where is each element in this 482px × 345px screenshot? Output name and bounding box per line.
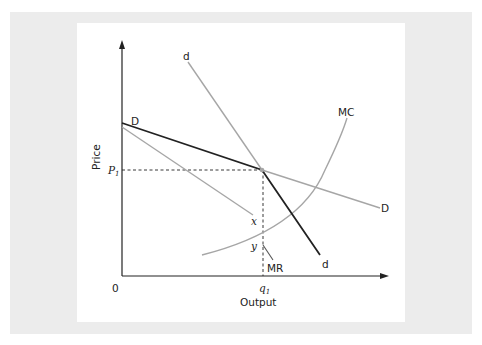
kink-point — [260, 168, 265, 173]
marginal-revenue-label: MR — [267, 262, 283, 274]
kinked-demand-curve — [122, 123, 320, 255]
price-level-label: P1 — [107, 164, 120, 178]
demand-label: D — [131, 115, 139, 127]
y-axis-arrow-icon — [119, 40, 125, 49]
kinked-demand-diagram: D D d d MC MR x y P1 q1 0 Output Price — [0, 0, 482, 345]
inelastic-demand-label: d — [183, 50, 190, 62]
x-axis-arrow-icon — [380, 273, 389, 279]
demand-inelastic-extension — [188, 62, 262, 170]
inelastic-demand-end-label: d — [322, 258, 329, 270]
gap-top-label: x — [251, 215, 257, 227]
marginal-cost-label: MC — [338, 106, 354, 118]
gap-bottom-label: y — [250, 240, 258, 252]
marginal-revenue-lower — [263, 245, 273, 260]
quantity-level-label: q1 — [259, 282, 270, 296]
marginal-cost-curve — [202, 118, 347, 255]
x-axis-label: Output — [240, 296, 276, 308]
marginal-revenue-upper — [122, 127, 253, 215]
origin-label: 0 — [112, 282, 119, 294]
demand-elastic-extension — [262, 170, 380, 208]
y-axis-label: Price — [90, 144, 102, 170]
demand-end-label: D — [381, 202, 389, 214]
